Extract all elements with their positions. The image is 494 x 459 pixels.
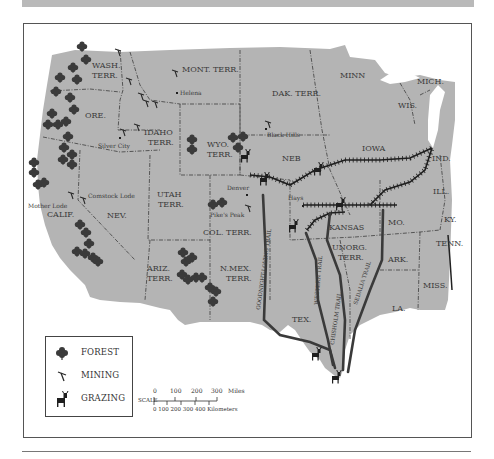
label-unorg: UNORG. (332, 243, 367, 252)
legend-item-mining: MINING (46, 366, 132, 386)
svg-text:Comstock Lode: Comstock Lode (88, 192, 135, 199)
label-wyo: WYO. (207, 140, 229, 149)
legend-label-mining: MINING (81, 370, 119, 380)
label-nev: NEV. (107, 211, 127, 220)
label-tenn: TENN. (436, 239, 463, 248)
label-mich: MICH. (417, 77, 444, 86)
legend-item-forest: FOREST (46, 343, 132, 363)
mining-icon (54, 368, 70, 384)
legend-item-grazing: GRAZING (46, 389, 132, 409)
label-wis: WIS. (398, 101, 417, 110)
label-mont: MONT. TERR. (182, 65, 239, 74)
label-calif: CALIF. (47, 210, 74, 219)
scale-miles-0: 0 (153, 387, 157, 394)
scale-miles-300: 300 (211, 387, 222, 394)
label-ind: IND. (432, 154, 451, 163)
label-neb: NEB (282, 154, 301, 163)
svg-text:TERR.: TERR. (338, 253, 364, 262)
label-kansas: KANSAS (329, 223, 364, 232)
scale-ruler (153, 396, 223, 406)
svg-text:Denver: Denver (227, 184, 249, 191)
scale-bar: SCALE 0 100 200 300 Miles 0 100 200 300 … (138, 387, 278, 417)
svg-text:TERR.: TERR. (207, 150, 233, 159)
us-landmass (37, 45, 455, 378)
svg-text:Black Hills: Black Hills (267, 131, 300, 138)
svg-text:Mother Lode: Mother Lode (28, 202, 68, 209)
svg-text:Hays: Hays (288, 194, 303, 202)
label-col: COL. TERR. (203, 228, 252, 237)
scale-km: 0 100 200 300 400 Kilometers (153, 406, 238, 412)
scale-miles-200: 200 (191, 387, 202, 394)
svg-text:Pike's Peak: Pike's Peak (210, 211, 245, 218)
grazing-icon (54, 391, 70, 407)
label-miss: MISS. (423, 281, 447, 290)
scale-miles-100: 100 (170, 387, 181, 394)
label-ariz: ARIZ. (146, 264, 170, 273)
scale-miles-unit: Miles (228, 387, 245, 394)
label-la: LA. (392, 304, 406, 313)
label-tex: TEX. (292, 315, 311, 324)
svg-text:TERR.: TERR. (158, 200, 184, 209)
label-iowa: IOWA (362, 144, 386, 153)
legend-label-forest: FOREST (81, 347, 119, 357)
label-ark: ARK. (387, 255, 408, 264)
label-minn: MINN (340, 71, 365, 80)
legend-label-grazing: GRAZING (81, 393, 125, 403)
svg-text:Helena: Helena (180, 89, 202, 96)
svg-text:TERR.: TERR. (148, 138, 174, 147)
label-nmex: N.MEX. (220, 264, 251, 273)
svg-text:TERR.: TERR. (226, 274, 252, 283)
label-ill: ILL. (433, 187, 449, 196)
map-legend: FOREST MINING GRAZING (45, 336, 133, 417)
svg-text:TERR.: TERR. (92, 71, 118, 80)
label-ky: KY. (444, 215, 457, 224)
svg-text:TERR.: TERR. (147, 274, 173, 283)
svg-text:Silver City: Silver City (98, 142, 131, 150)
forest-icon (54, 345, 70, 361)
label-utah: UTAH (157, 190, 181, 199)
label-wash: WASH. (92, 61, 121, 70)
label-ore: ORE. (85, 111, 106, 120)
label-idaho: IDAHO (144, 128, 173, 137)
label-dak: DAK. TERR. (272, 89, 321, 98)
label-mo: MO. (388, 218, 405, 227)
